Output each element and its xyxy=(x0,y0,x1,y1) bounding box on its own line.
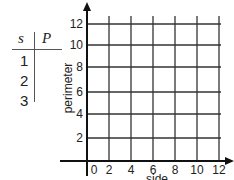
grid xyxy=(87,16,221,161)
svg-text:8: 8 xyxy=(172,163,179,177)
svg-text:0: 0 xyxy=(91,163,98,177)
svg-text:12: 12 xyxy=(212,163,226,177)
svg-text:10: 10 xyxy=(190,163,204,177)
svg-text:2: 2 xyxy=(106,163,113,177)
svg-text:4: 4 xyxy=(128,163,135,177)
y-axis-arrow-icon xyxy=(83,2,91,11)
y-axis-label: perimeter xyxy=(61,63,75,114)
svg-text:4: 4 xyxy=(76,107,83,121)
svg-text:10: 10 xyxy=(70,38,84,52)
svg-text:8: 8 xyxy=(76,60,83,74)
x-axis-label: side xyxy=(146,172,168,180)
graph: 12 10 8 6 4 2 0 2 4 6 8 10 12 side perim… xyxy=(0,0,234,180)
x-axis-arrow-icon xyxy=(225,157,234,165)
svg-text:2: 2 xyxy=(76,131,83,145)
svg-text:12: 12 xyxy=(70,17,84,31)
svg-text:6: 6 xyxy=(76,85,83,99)
